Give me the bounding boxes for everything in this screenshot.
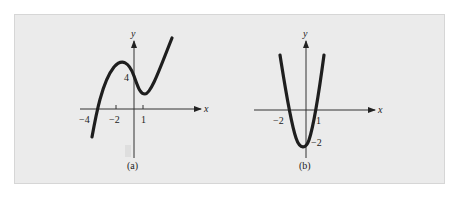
tick-label-b-neg2-y: −2 bbox=[311, 137, 322, 148]
tick-label-a-neg2: −2 bbox=[109, 114, 120, 125]
tick-label-a-4: 4 bbox=[124, 72, 129, 83]
parabola-curve bbox=[280, 55, 324, 147]
panel-b: −2 1 −2 x y (b) bbox=[254, 28, 383, 172]
axis-label-a-y: y bbox=[130, 28, 136, 39]
axis-label-b-x: x bbox=[377, 104, 383, 115]
smudge bbox=[125, 145, 131, 157]
tick-label-b-neg2: −2 bbox=[273, 115, 284, 126]
tick-label-a-1: 1 bbox=[141, 114, 146, 125]
cubic-curve bbox=[92, 38, 172, 137]
axis-label-a-x: x bbox=[203, 103, 209, 114]
caption-b: (b) bbox=[299, 160, 311, 172]
panel-a: −4 −2 1 4 x y (a) bbox=[79, 28, 209, 172]
axis-label-b-y: y bbox=[302, 28, 308, 39]
caption-a: (a) bbox=[127, 160, 138, 172]
tick-label-b-1: 1 bbox=[316, 115, 321, 126]
figure-graphs: −4 −2 1 4 x y (a) −2 1 −2 x y (b) bbox=[0, 0, 460, 198]
tick-label-a-neg4: −4 bbox=[79, 114, 90, 125]
